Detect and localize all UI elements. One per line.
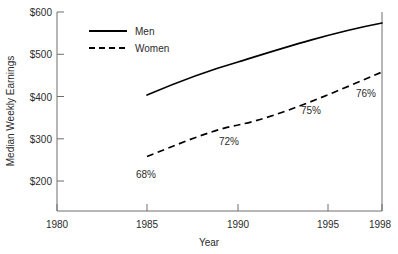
y-tick-label-300: $300	[30, 134, 53, 145]
x-tick-label-1980: 1980	[46, 219, 69, 230]
annotation-72: 72%	[219, 136, 239, 147]
y-axis-ticks	[57, 12, 64, 181]
chart-figure: $600 $500 $400 $300 $200 1980 1985 1990 …	[0, 0, 398, 254]
annotation-76: 76%	[356, 88, 376, 99]
x-axis-ticks	[57, 204, 382, 211]
annotation-75: 75%	[301, 105, 321, 116]
plot-frame	[57, 12, 382, 211]
x-tick-label-1990: 1990	[227, 219, 250, 230]
y-tick-label-500: $500	[30, 49, 53, 60]
series-line-men	[147, 23, 382, 95]
y-axis-title: Median Weekly Earnings	[5, 56, 16, 166]
legend-label-women: Women	[135, 43, 169, 54]
x-axis-title: Year	[199, 237, 220, 248]
annotation-68: 68%	[136, 169, 156, 180]
percentage-annotations: 68% 72% 75% 76%	[136, 88, 376, 180]
x-axis-tick-labels: 1980 1985 1990 1995 1998	[46, 219, 392, 230]
series-line-women	[147, 72, 382, 157]
chart-canvas: $600 $500 $400 $300 $200 1980 1985 1990 …	[0, 0, 398, 254]
y-tick-label-400: $400	[30, 92, 53, 103]
y-tick-label-200: $200	[30, 176, 53, 187]
x-tick-label-1998: 1998	[369, 219, 392, 230]
x-tick-label-1985: 1985	[136, 219, 159, 230]
y-tick-label-600: $600	[30, 7, 53, 18]
x-tick-label-1995: 1995	[317, 219, 340, 230]
legend-label-men: Men	[135, 26, 154, 37]
y-axis-tick-labels: $600 $500 $400 $300 $200	[30, 7, 53, 187]
chart-legend: Men Women	[89, 26, 169, 54]
